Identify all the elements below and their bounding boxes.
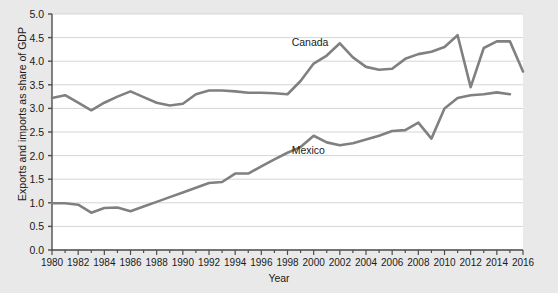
y-tick-label: 1.0 (10, 198, 44, 209)
y-tick-label: 2.0 (10, 151, 44, 162)
y-tick-label: 3.0 (10, 103, 44, 114)
y-tick-label: 5.0 (10, 9, 44, 20)
y-tick-label: 0.5 (10, 221, 44, 232)
series-label-canada: Canada (292, 36, 329, 48)
chart-container: Exports and imports as share of GDP Year… (0, 0, 558, 293)
y-tick-label: 3.5 (10, 80, 44, 91)
y-tick-label: 2.5 (10, 127, 44, 138)
x-tick-label: 2016 (503, 258, 543, 268)
y-tick-label: 1.5 (10, 174, 44, 185)
series-label-mexico: Mexico (292, 144, 325, 156)
plot-svg (0, 0, 558, 293)
y-tick-label: 4.5 (10, 33, 44, 44)
y-tick-label: 4.0 (10, 56, 44, 67)
y-tick-label: 0.0 (10, 245, 44, 256)
